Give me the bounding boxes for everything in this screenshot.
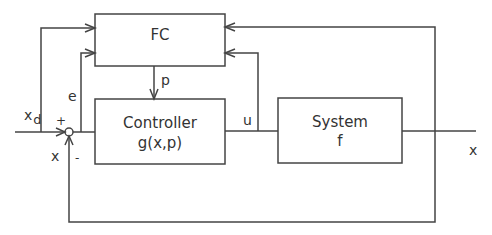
xd-label: xd <box>24 108 42 122</box>
param-label: p <box>161 73 170 87</box>
xd-main: x <box>24 107 32 123</box>
control-to-fc-line <box>225 53 258 131</box>
controller-function: g(x,p) <box>95 133 225 153</box>
minus-sign: - <box>75 152 79 164</box>
control-label: u <box>243 113 252 127</box>
xd-subscript: d <box>33 112 41 127</box>
error-to-fc-line <box>81 53 95 132</box>
xd-to-fc-line <box>41 28 95 132</box>
system-label: System <box>278 112 402 132</box>
fc-label: FC <box>95 25 225 45</box>
controller-label: Controller <box>95 113 225 133</box>
error-label: e <box>68 89 77 103</box>
system-function: f <box>278 131 402 151</box>
feedback-x-label: x <box>51 149 59 163</box>
plus-sign: + <box>56 115 66 127</box>
output-label: x <box>469 143 477 157</box>
